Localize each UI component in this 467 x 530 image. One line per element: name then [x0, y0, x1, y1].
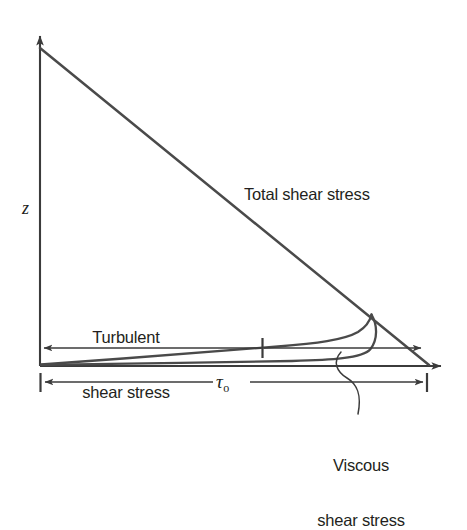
- viscous-label-line-1: Viscous: [294, 456, 428, 474]
- tau-subscript: o: [223, 381, 229, 395]
- bed-shear-stress-label: τo: [216, 371, 229, 396]
- turbulent-shear-stress-label: Turbulent shear stress: [60, 291, 192, 439]
- viscous-leader-line: [336, 352, 359, 414]
- z-axis-label: z: [22, 198, 29, 218]
- turbulent-label-line-1: Turbulent: [60, 328, 192, 346]
- turbulent-label-line-2: shear stress: [60, 383, 192, 401]
- viscous-label-line-2: shear stress: [294, 511, 428, 529]
- viscous-shear-stress-label: Viscous shear stress: [294, 419, 428, 530]
- total-shear-stress-label: Total shear stress: [244, 185, 370, 203]
- tau-symbol: τ: [216, 371, 223, 392]
